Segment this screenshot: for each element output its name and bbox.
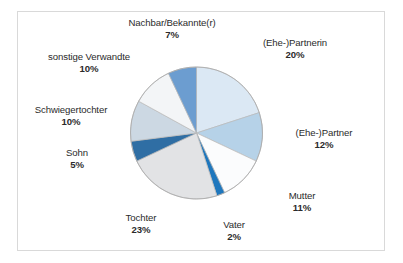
pie-chart: Nachbar/Bekannte(r) 7% (Ehe-)Partnerin 2… [0,0,403,263]
pie-label-sohn: Sohn 5% [48,147,106,171]
pie-label-ehe-partnerin: (Ehe-)Partnerin 20% [240,37,350,61]
pie-label-schwiegertochter-name: Schwiegertochter [15,104,127,116]
pie-label-schwiegertochter: Schwiegertochter 10% [15,104,127,128]
pie-label-sonstige-verwandte-name: sonstige Verwandte [27,51,151,63]
pie-label-vater-value: 2% [207,231,261,243]
pie-label-sohn-value: 5% [48,159,106,171]
pie-label-nachbar-bekannte: Nachbar/Bekannte(r) 7% [111,17,233,41]
pie-label-nachbar-bekannte-value: 7% [111,29,233,41]
chart-page: Nachbar/Bekannte(r) 7% (Ehe-)Partnerin 2… [0,0,403,263]
pie-label-tochter-value: 23% [107,224,175,236]
pie-label-tochter-name: Tochter [107,212,175,224]
pie-label-schwiegertochter-value: 10% [15,116,127,128]
pie-label-sonstige-verwandte-value: 10% [27,63,151,75]
pie-label-ehe-partner: (Ehe-)Partner 12% [272,127,376,151]
pie-label-sohn-name: Sohn [48,147,106,159]
pie-label-nachbar-bekannte-name: Nachbar/Bekannte(r) [111,17,233,29]
pie-label-mutter-name: Mutter [267,190,337,202]
pie-label-ehe-partnerin-name: (Ehe-)Partnerin [240,37,350,49]
pie-label-tochter: Tochter 23% [107,212,175,236]
pie-label-ehe-partner-value: 12% [272,139,376,151]
pie-label-vater-name: Vater [207,219,261,231]
pie-label-sonstige-verwandte: sonstige Verwandte 10% [27,51,151,75]
pie-label-ehe-partner-name: (Ehe-)Partner [272,127,376,139]
pie-label-mutter-value: 11% [267,202,337,214]
pie-label-mutter: Mutter 11% [267,190,337,214]
pie-slice-group [130,67,262,199]
pie-label-ehe-partnerin-value: 20% [240,49,350,61]
pie-label-vater: Vater 2% [207,219,261,243]
